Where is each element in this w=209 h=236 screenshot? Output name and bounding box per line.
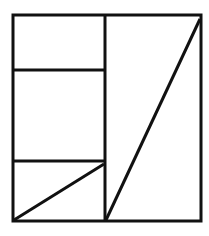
geometric-diagram	[0, 0, 209, 236]
right-diagonal-line	[106, 19, 200, 220]
left-diagonal-line	[14, 164, 104, 220]
outer-square	[13, 15, 201, 221]
